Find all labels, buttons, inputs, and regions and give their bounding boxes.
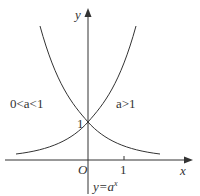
y-axis-arrow-icon — [85, 8, 92, 17]
y-axis-label: y — [75, 8, 81, 21]
curve-decreasing — [40, 26, 160, 154]
function-caption: y=ax — [93, 180, 118, 193]
exponential-function-diagram: y x O 1 1 0<a<1 a>1 y=ax — [0, 0, 200, 196]
y-tick-label: 1 — [77, 117, 84, 130]
origin-label: O — [78, 163, 87, 176]
curve-increasing — [16, 26, 136, 154]
caption-exponent: x — [114, 179, 118, 188]
x-axis-label: x — [180, 164, 186, 177]
curve-label-increasing: a>1 — [116, 97, 136, 110]
caption-text: y=a — [93, 179, 114, 194]
curve-label-decreasing: 0<a<1 — [10, 97, 43, 110]
x-tick-label: 1 — [120, 163, 127, 176]
